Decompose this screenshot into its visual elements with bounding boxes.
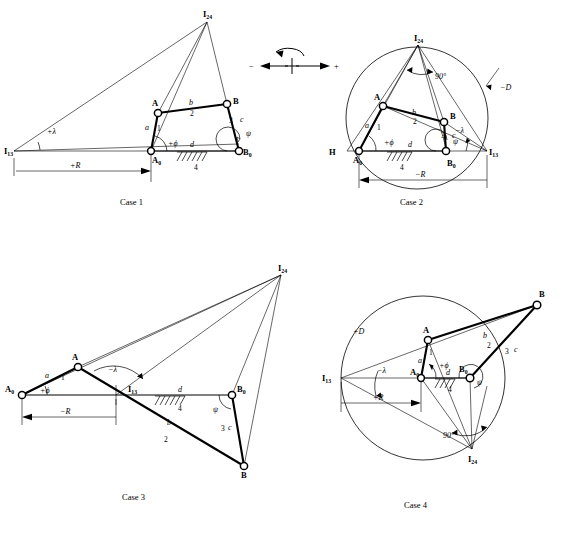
case2-label-link-a: a [365, 121, 369, 130]
case3-label-b: B [241, 470, 247, 480]
case4-label-num4: 4 [448, 385, 452, 394]
case2-label-link-d: d [408, 140, 413, 149]
case4-label-i13: I13 [322, 373, 331, 384]
case3-label-i24: I24 [278, 263, 287, 274]
case1-label-lambda: +λ [47, 127, 56, 136]
case-3-group: I24 I13 A B A0 B0 a b c d 1 2 3 4 +ϕ −λ … [5, 263, 287, 502]
case1-label-phi: +ϕ [168, 139, 178, 148]
case3-caption: Case 3 [122, 492, 145, 502]
case3-link-c [232, 395, 244, 466]
case3-label-psi: ψ [213, 405, 219, 414]
case3-label-r: −R [60, 407, 70, 416]
case4-line-i24-b [472, 386, 487, 449]
case4-label-b0: B0 [459, 364, 468, 375]
case4-joint-b [533, 301, 541, 309]
case3-label-a0: A0 [5, 384, 14, 395]
figure-canvas: I13 I24 A B A0 B0 a b c d 1 2 3 4 +λ +ϕ … [0, 0, 564, 535]
case4-line-i24-b0 [470, 378, 472, 449]
case2-label-h: H [329, 147, 336, 157]
case2-joint-b [440, 118, 447, 125]
case1-ground-hatch [177, 152, 207, 161]
case-4-group: I24 I13 A B A0 B0 a b c d 1 2 3 4 +D −λ … [322, 289, 545, 510]
case4-label-link-c: c [514, 345, 518, 354]
case2-label-d: −D [500, 83, 511, 92]
case1-label-link-d: d [190, 140, 195, 149]
case3-label-link-a: a [45, 371, 49, 380]
case2-label-r: −R [415, 170, 425, 179]
case2-joint-b0 [442, 147, 449, 154]
case4-caption: Case 4 [404, 500, 428, 510]
case3-dim-arrow-r [22, 414, 32, 420]
case2-d-leader [486, 68, 499, 86]
case3-label-b0: B0 [237, 384, 246, 395]
case1-line-i24-b [207, 22, 227, 104]
case3-label-num4: 4 [178, 404, 182, 413]
case4-label-lambda: −λ [377, 366, 386, 375]
case1-label-i24: I24 [203, 9, 212, 20]
case3-label-lambda: −λ [108, 365, 117, 374]
case4-label-link-a: a [418, 356, 422, 365]
case1-line-i24-a [158, 22, 207, 113]
case2-label-num3: 3 [441, 131, 445, 140]
case3-label-link-c: c [228, 423, 232, 432]
case4-label-psi: ψ [477, 378, 483, 387]
case4-label-angle90: 90° [443, 431, 455, 440]
case3-lambda-arc [94, 366, 143, 379]
case4-label-num2: 2 [487, 341, 491, 350]
case2-label-a: A [374, 92, 381, 102]
case2-dim-arrow-r [359, 177, 369, 183]
case1-label-psi: ψ [246, 129, 252, 138]
case4-label-num3: 3 [505, 347, 509, 356]
case1-lambda-arc [38, 142, 40, 150]
case4-joint-b0 [466, 374, 474, 382]
case2-ground-hatch [387, 152, 412, 161]
case4-label-link-b: b [483, 331, 487, 340]
case-1-group: I13 I24 A B A0 B0 a b c d 1 2 3 4 +λ +ϕ … [4, 9, 252, 207]
case4-label-phi: +ϕ [439, 361, 449, 370]
case4-label-r: +R [373, 393, 383, 402]
case1-label-i13: I13 [4, 146, 13, 157]
case3-joint-b [240, 462, 247, 469]
case-2-group: I24 I13 H A B A0 B0 a b c d 1 2 3 4 90° … [329, 33, 511, 207]
sign-convention-legend: − + [249, 48, 339, 74]
case3-joint-a0 [18, 391, 25, 398]
case2-circle [346, 47, 488, 189]
case3-joint-a [74, 363, 81, 370]
case2-label-link-b: b [412, 108, 416, 117]
case4-label-i24: I24 [468, 454, 477, 465]
case3-label-num3: 3 [221, 424, 225, 433]
case3-label-phi: +ϕ [40, 386, 50, 395]
legend-left-arrowhead [260, 62, 270, 69]
case1-label-a0: A0 [152, 155, 161, 166]
case1-label-link-c: c [240, 115, 244, 124]
case4-ground-hatch [435, 379, 455, 388]
case1-label-num2: 2 [190, 109, 194, 118]
case1-joint-b0 [235, 147, 242, 154]
case1-joint-a0 [148, 148, 155, 155]
legend-right-arrowhead [320, 62, 330, 69]
case2-line-h-i24 [347, 45, 418, 151]
case1-label-num4: 4 [194, 163, 198, 172]
case1-joint-b [223, 100, 230, 107]
case1-dim-arrow-r [141, 168, 151, 174]
case3-label-a: A [72, 352, 79, 362]
case4-dim-arrow-r [411, 400, 421, 406]
case2-label-lambda: −λ [455, 126, 464, 135]
case2-label-b: B [450, 111, 456, 121]
case1-label-r: +R [70, 161, 80, 170]
case2-line-a-i13 [383, 106, 487, 151]
case1-line-i13-b0 [14, 144, 239, 151]
case3-link-a [22, 367, 78, 395]
case1-label-link-b: b [189, 98, 193, 107]
case1-label-num3: 3 [229, 116, 233, 125]
case1-joint-a [154, 109, 161, 116]
case2-caption: Case 2 [400, 197, 423, 207]
case2-joint-a [379, 102, 386, 109]
case2-label-phi: +ϕ [384, 138, 394, 147]
case1-label-a: A [152, 98, 159, 108]
case3-label-i13: I13 [128, 384, 137, 395]
case4-label-num1: 1 [429, 348, 433, 357]
case4-label-d: +D [353, 327, 364, 336]
case3-label-link-d: d [178, 385, 183, 394]
case2-phi-arc [369, 136, 376, 151]
